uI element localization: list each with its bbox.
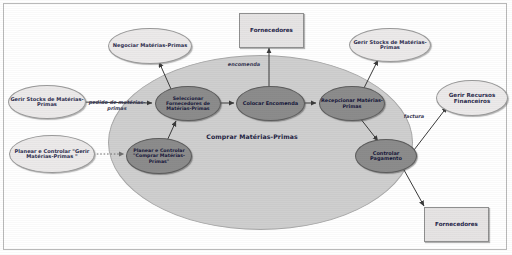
process-label: Recepcionar Matérias-Primas	[320, 98, 384, 109]
process-label: Seleccionar Fornecedores de Matérias-Pri…	[156, 96, 220, 111]
external-process-gerir-recursos-financeiros[interactable]: Gerir Recursos Financeiros	[436, 80, 508, 116]
edge-recepcionar-to-gerir-stocks	[364, 60, 378, 88]
process-label: Colocar Encomenda	[237, 101, 304, 106]
flow-label-pedido-de-materias-primas: pedido de matérias-primas	[86, 100, 148, 112]
flow-label-factura: factura	[396, 114, 432, 120]
external-process-planear-controlar-gerir[interactable]: Planear e Controlar "Gerir Matérias-Prim…	[9, 135, 95, 173]
external-process-label: Gerir Stocks de Matérias-Primas	[9, 97, 85, 108]
process-planear-controlar-comprar[interactable]: Planear e Controlar "Comprar Matérias-Pr…	[126, 138, 192, 174]
diagram-canvas: Comprar Matérias-Primas	[0, 0, 512, 255]
external-process-gerir-stocks-esquerda[interactable]: Gerir Stocks de Matérias-Primas	[8, 85, 86, 119]
edge-recepcionar-to-controlar-pagamento	[360, 118, 378, 141]
edge-seleccionar-to-negociar	[159, 62, 171, 89]
process-label: Controlar Pagamento	[356, 151, 416, 162]
external-process-label: Gerir Stocks de Matérias-Primas	[350, 40, 430, 51]
process-seleccionar-fornecedores[interactable]: Seleccionar Fornecedores de Matérias-Pri…	[155, 86, 221, 121]
flow-label-encomenda: encomenda	[216, 62, 272, 68]
external-process-label: Planear e Controlar "Gerir Matérias-Prim…	[10, 149, 94, 160]
edge-controlar-to-fornecedores-base	[404, 170, 424, 206]
process-label: Planear e Controlar "Comprar Matérias-Pr…	[127, 148, 191, 163]
process-recepcionar-materias-primas[interactable]: Recepcionar Matérias-Primas	[319, 86, 385, 121]
external-process-gerir-stocks-direita[interactable]: Gerir Stocks de Matérias-Primas	[349, 28, 431, 62]
external-entity-label: Fornecedores	[425, 221, 488, 227]
external-entity-fornecedores-base[interactable]: Fornecedores	[424, 207, 489, 242]
external-entity-fornecedores-topo[interactable]: Fornecedores	[239, 13, 304, 48]
external-process-negociar-materias-primas[interactable]: Negociar Matérias-Primas	[108, 28, 192, 64]
process-controlar-pagamento[interactable]: Controlar Pagamento	[355, 139, 417, 173]
external-process-label: Negociar Matérias-Primas	[109, 43, 191, 49]
external-entity-label: Fornecedores	[240, 27, 303, 33]
external-process-label: Gerir Recursos Financeiros	[437, 92, 507, 104]
process-colocar-encomenda[interactable]: Colocar Encomenda	[236, 86, 305, 121]
